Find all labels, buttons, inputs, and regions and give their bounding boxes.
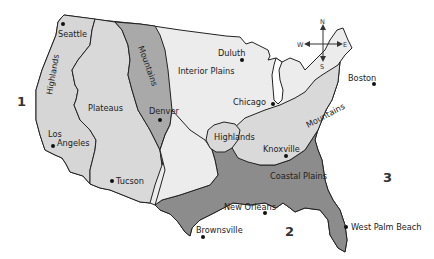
city-dot: [51, 144, 55, 148]
city-boston: Boston: [348, 73, 376, 86]
city-dot: [110, 179, 114, 183]
svg-text:Seattle: Seattle: [58, 29, 87, 39]
svg-text:Duluth: Duluth: [218, 48, 245, 58]
marker-1: 1: [17, 94, 26, 109]
svg-text:Angeles: Angeles: [57, 138, 90, 148]
city-new-orleans: New Orleans: [224, 202, 276, 215]
us-physical-regions-map: Highlands Plateaus Mountains Interior Pl…: [0, 0, 434, 259]
svg-text:Tucson: Tucson: [115, 176, 144, 186]
label-coastal-plains: Coastal Plains: [270, 171, 327, 181]
compass-w: W: [297, 41, 304, 49]
compass-e: E: [343, 41, 347, 49]
compass-s: S: [320, 63, 324, 71]
city-dot: [240, 58, 244, 62]
city-dot: [344, 225, 348, 229]
city-dot: [61, 22, 65, 26]
svg-text:New Orleans: New Orleans: [224, 202, 276, 212]
svg-text:Denver: Denver: [149, 106, 179, 116]
marker-3: 3: [383, 170, 392, 185]
label-plateaus: Plateaus: [88, 103, 123, 113]
svg-text:Knoxville: Knoxville: [263, 144, 300, 154]
svg-text:Chicago: Chicago: [233, 97, 266, 107]
svg-text:Boston: Boston: [348, 73, 376, 83]
city-brownsville: Brownsville: [196, 225, 243, 239]
city-west-palm-beach: West Palm Beach: [344, 222, 422, 232]
marker-2: 2: [285, 224, 294, 239]
city-dot: [284, 154, 288, 158]
city-dot: [271, 102, 275, 106]
city-dot: [158, 118, 162, 122]
city-dot: [201, 235, 205, 239]
svg-text:Brownsville: Brownsville: [196, 225, 243, 235]
city-tucson: Tucson: [110, 176, 144, 186]
compass-n: N: [320, 18, 325, 26]
svg-text:West Palm Beach: West Palm Beach: [351, 222, 422, 232]
label-interior-plains: Interior Plains: [178, 66, 234, 76]
label-ozark-highlands: Highlands: [214, 132, 255, 142]
